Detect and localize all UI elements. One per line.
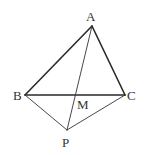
segment-ac [92,26,125,95]
segment-cp [67,95,125,130]
label-c: C [127,88,136,103]
segment-ap [67,26,92,130]
label-a: A [86,9,96,24]
label-b: B [13,88,22,103]
label-m: M [77,97,89,112]
segment-bp [25,95,67,130]
segment-ab [25,26,92,95]
label-p: P [62,135,69,150]
geometry-diagram: A B C M P [0,0,145,155]
